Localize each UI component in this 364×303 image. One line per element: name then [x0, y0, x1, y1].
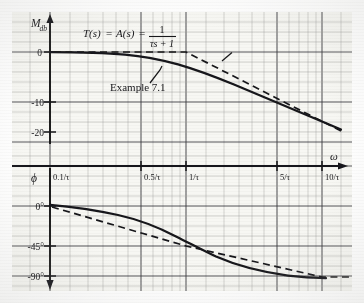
- phase-axis-title: ϕ: [31, 172, 37, 185]
- omega-tick-0p5: 0.5/τ: [144, 172, 161, 182]
- magnitude-axis-title-subscript: db: [40, 24, 48, 33]
- phase-ytick-minus45deg: -45°: [28, 242, 45, 252]
- magnitude-ytick-0: 0: [37, 48, 42, 58]
- omega-tick-1: 1/τ: [189, 172, 200, 182]
- bode-plot-figure: M db 0 -10 -20 T(s) = A(s) = 1 τs + 1 Ex…: [0, 0, 364, 303]
- phase-ytick-minus90deg: -90°: [28, 272, 45, 282]
- equation-equals-1: =: [106, 27, 112, 39]
- example-annotation-label: Example 7.1: [110, 81, 166, 93]
- omega-axis-label: ω: [330, 150, 338, 162]
- magnitude-ytick-minus10: -10: [31, 98, 44, 108]
- magnitude-ytick-minus20: -20: [31, 128, 44, 138]
- omega-tick-10: 10/τ: [325, 172, 340, 182]
- phase-ytick-0deg: 0°: [35, 202, 44, 212]
- figure-page: M db 0 -10 -20 T(s) = A(s) = 1 τs + 1 Ex…: [0, 0, 364, 303]
- equation-lhs-A: A(s): [115, 27, 135, 40]
- graph-paper: [12, 12, 352, 291]
- equation-numerator: 1: [160, 24, 165, 35]
- omega-tick-5: 5/τ: [280, 172, 291, 182]
- omega-tick-0p1: 0.1/τ: [53, 172, 70, 182]
- equation-denominator: τs + 1: [150, 38, 174, 49]
- equation-equals-2: =: [139, 27, 145, 39]
- equation-lhs-T: T(s): [83, 27, 101, 40]
